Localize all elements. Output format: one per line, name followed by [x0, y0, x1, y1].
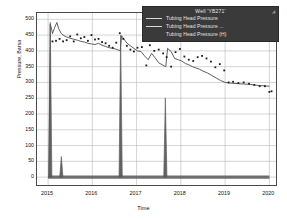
legend-entry-label: Tubing Head Pressure (H) — [166, 31, 227, 37]
legend-entry[interactable]: Tubing Head Pressure (H) — [143, 30, 278, 38]
series-spikes — [48, 22, 269, 177]
x-axis-tick-labels: 201520162017201820192020 — [0, 190, 287, 202]
y-tick-label: 50 — [6, 157, 34, 163]
x-tick-label: 2016 — [76, 190, 106, 196]
legend-entries[interactable]: Tubing Head PressureTubing Head Pressure… — [143, 14, 278, 38]
y-axis-tick-labels: 050100150200250300350400450500 — [0, 0, 34, 220]
series-line — [49, 22, 269, 177]
legend-panel[interactable]: Well 'YB271' Tubing Head PressureTubing … — [142, 6, 279, 42]
x-tick-label: 2018 — [165, 190, 195, 196]
resize-handle-icon[interactable]: ◢ — [271, 9, 276, 14]
y-tick-label: 200 — [6, 110, 34, 116]
legend-swatch-icon — [146, 26, 162, 27]
legend-swatch-icon — [146, 18, 162, 19]
y-tick-label: 150 — [6, 126, 34, 132]
y-tick-label: 450 — [6, 31, 34, 37]
y-tick-label: 0 — [6, 173, 34, 179]
pressure-time-chart: Pressure, Barsa 050100150200250300350400… — [0, 0, 287, 220]
legend-swatch-icon — [146, 34, 162, 35]
y-tick-label: 350 — [6, 63, 34, 69]
x-axis-label: Time — [0, 205, 287, 211]
x-tick-label: 2019 — [209, 190, 239, 196]
y-tick-label: 100 — [6, 142, 34, 148]
y-tick-label: 300 — [6, 78, 34, 84]
legend-title: Well 'YB271' — [143, 7, 278, 14]
y-tick-label: 500 — [6, 15, 34, 21]
legend-entry-label: Tubing Head Pressure — [166, 15, 218, 21]
x-tick-label: 2017 — [121, 190, 151, 196]
legend-entry[interactable]: Tubing Head Pressure ... — [143, 22, 278, 30]
legend-entry-label: Tubing Head Pressure ... — [166, 23, 224, 29]
y-tick-label: 250 — [6, 94, 34, 100]
y-tick-label: 400 — [6, 47, 34, 53]
legend-entry[interactable]: Tubing Head Pressure — [143, 14, 278, 22]
x-tick-label: 2020 — [253, 190, 283, 196]
x-tick-label: 2015 — [32, 190, 62, 196]
